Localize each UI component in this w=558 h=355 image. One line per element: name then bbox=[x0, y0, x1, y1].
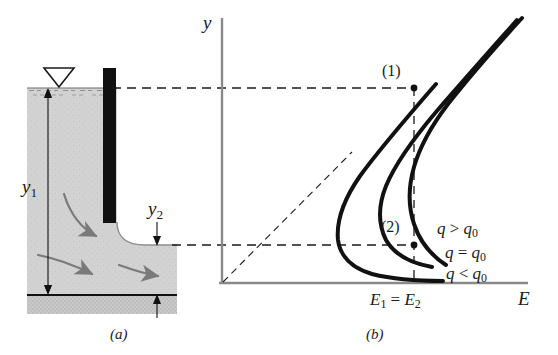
panel-a-schematic bbox=[27, 68, 177, 318]
asymptote-line bbox=[223, 152, 352, 282]
sluice-gate bbox=[103, 68, 116, 223]
point-2-marker bbox=[411, 242, 418, 249]
curve-label-q-equal: q = q0 bbox=[445, 243, 486, 265]
point-1-marker bbox=[411, 85, 418, 92]
panel-a-caption: (a) bbox=[110, 326, 128, 343]
chart-y-axis-label: y bbox=[203, 12, 211, 34]
panel-a-y1-label: y1 bbox=[22, 176, 37, 201]
panel-b-caption: (b) bbox=[366, 326, 384, 343]
chart-x-axis-label: E bbox=[518, 288, 530, 310]
channel-bed-material bbox=[27, 296, 177, 314]
figure-root bbox=[0, 0, 558, 355]
point-1-label: (1) bbox=[382, 62, 401, 80]
free-surface-triangle-icon bbox=[44, 68, 74, 87]
panel-a-y2-label: y2 bbox=[148, 198, 163, 223]
point-2-label: (2) bbox=[381, 218, 400, 236]
curve-label-q-less: q < q0 bbox=[446, 264, 487, 286]
curve-label-q-greater: q > q0 bbox=[437, 219, 478, 241]
energy-axis-tick-label: E1 = E2 bbox=[370, 290, 421, 312]
upstream-water-body bbox=[27, 88, 177, 295]
